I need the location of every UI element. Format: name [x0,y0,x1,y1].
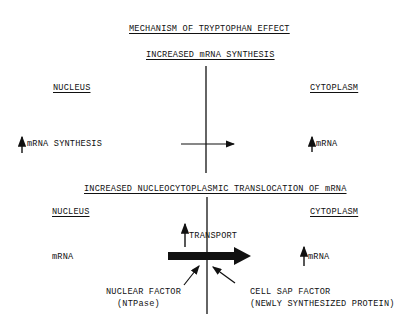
diagram-title: MECHANISM OF TRYPTOPHAN EFFECT [129,24,290,34]
mrna-label-cytoplasm-2: mRNA [308,252,329,262]
nucleus-label-2: NUCLEUS [52,207,90,217]
nuclear-factor-arrow [184,266,199,285]
cytoplasm-label-2: CYTOPLASM [310,207,358,217]
transport-arrow-shaft [168,252,235,260]
transport-arrow-head [234,247,251,265]
cell-sap-factor-label: CELL SAP FACTOR [250,287,330,297]
nuclear-factor-sublabel: (NTPase) [117,299,160,309]
nucleus-label-1: NUCLEUS [53,83,91,93]
mrna-label-nucleus: mRNA [52,252,73,262]
cell-sap-factor-sublabel: (NEWLY SYNTHESIZED PROTEIN) [250,299,395,309]
section2-heading: INCREASED NUCLEOCYTOPLASMIC TRANSLOCATIO… [84,184,347,194]
section1-heading: INCREASED mRNA SYNTHESIS [146,50,275,60]
transport-label: TRANSPORT [189,231,237,241]
mrna-label-cytoplasm-1: mRNA [316,139,337,149]
mrna-synthesis-label: mRNA SYNTHESIS [27,139,102,149]
cytoplasm-label-1: CYTOPLASM [310,83,358,93]
nuclear-factor-label: NUCLEAR FACTOR [106,287,181,297]
cell-sap-factor-arrow [213,267,235,283]
